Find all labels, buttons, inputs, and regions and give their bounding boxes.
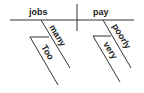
predicate-word: pay (93, 7, 109, 17)
subject-word: jobs (28, 7, 48, 17)
sentence-diagram: jobs pay many Too poorly very (0, 0, 144, 93)
modifier-word-too: Too (39, 43, 56, 62)
